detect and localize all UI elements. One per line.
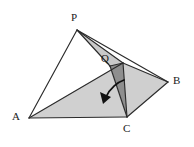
vertex-label-a: A	[12, 111, 20, 122]
face-R-B-C	[123, 63, 168, 117]
vertex-label-p: P	[71, 12, 77, 23]
vertex-label-q: Q	[101, 53, 109, 64]
geometry-figure: P Q B A C	[0, 0, 194, 147]
geometry-canvas	[0, 0, 194, 147]
vertex-label-c: C	[123, 123, 130, 134]
vertex-label-b: B	[173, 75, 180, 86]
edge-P-R	[77, 30, 123, 63]
